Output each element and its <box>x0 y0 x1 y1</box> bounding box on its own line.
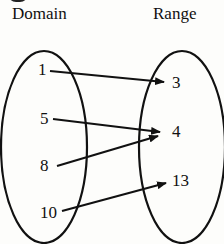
range-value-13: 13 <box>172 171 189 191</box>
arrow-8-to-4 <box>57 136 158 166</box>
arrow-5-to-4 <box>53 119 160 132</box>
domain-value-10: 10 <box>40 203 57 223</box>
mapping-diagram: Domain Range 1 5 8 10 3 4 13 <box>0 0 224 244</box>
arrow-1-to-3 <box>50 71 164 82</box>
arrow-10-to-13 <box>62 183 166 211</box>
domain-value-5: 5 <box>40 109 49 129</box>
range-value-3: 3 <box>172 73 181 93</box>
domain-value-1: 1 <box>38 60 47 80</box>
domain-value-8: 8 <box>40 156 49 176</box>
range-value-4: 4 <box>172 122 181 142</box>
diagram-graphics <box>0 0 224 244</box>
